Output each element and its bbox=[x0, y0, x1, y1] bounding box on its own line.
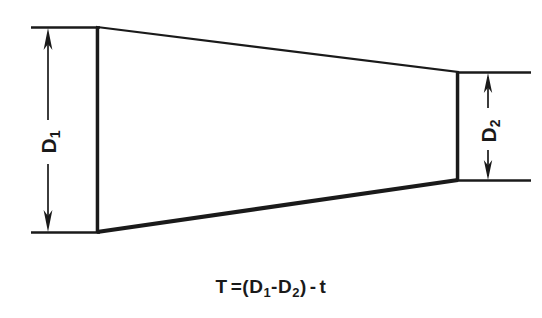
d2-subscript: 2 bbox=[487, 120, 503, 128]
formula-minus-1: - bbox=[271, 276, 278, 297]
d2-base: D bbox=[477, 127, 500, 142]
formula-term2-base: D bbox=[278, 276, 292, 297]
taper-outline bbox=[97, 27, 458, 232]
formula-result: T bbox=[216, 276, 228, 297]
formula-caption: T=(D1-D2)-t bbox=[0, 276, 542, 298]
formula-term3: t bbox=[320, 276, 327, 297]
formula-term1-subscript: 1 bbox=[263, 285, 271, 300]
formula-term2-subscript: 2 bbox=[292, 285, 300, 300]
taper-diagram-svg bbox=[0, 0, 542, 318]
formula-minus-2: - bbox=[310, 276, 317, 297]
dimension-label-d2-text: D2 bbox=[478, 120, 500, 143]
dimension-label-d1-text: D1 bbox=[38, 131, 60, 154]
figure-canvas: D1 D2 T=(D1-D2)-t bbox=[0, 0, 542, 318]
formula-close-paren: ) bbox=[300, 276, 307, 297]
formula-term1-base: D bbox=[249, 276, 263, 297]
dimension-label-d1: D1 bbox=[25, 129, 73, 155]
d1-base: D bbox=[37, 138, 60, 153]
formula-equals: = bbox=[231, 276, 243, 297]
d1-subscript: 1 bbox=[47, 131, 63, 139]
dimension-label-d2: D2 bbox=[465, 118, 513, 144]
